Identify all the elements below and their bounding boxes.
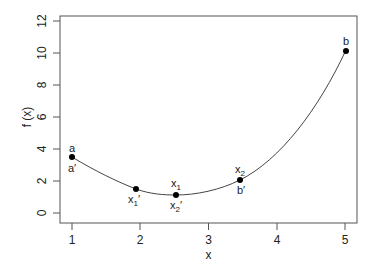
label-x1: x1 (171, 177, 182, 192)
point-x1-prime (133, 186, 139, 192)
y-tick-label: 12 (35, 14, 49, 28)
chart: 0 2 4 6 8 10 12 f (x) 1 2 3 4 5 x a a′ x… (0, 0, 386, 274)
label-x2: x2 (235, 163, 246, 178)
y-tick-label: 4 (35, 145, 49, 152)
marked-points (69, 48, 349, 198)
x-tick-label: 5 (342, 233, 349, 247)
label-b-prime: b′ (237, 184, 245, 196)
point-x1 (173, 192, 179, 198)
x-tick-label: 2 (137, 233, 144, 247)
function-curve (72, 50, 346, 195)
y-tick-label: 6 (35, 113, 49, 120)
x-axis (72, 223, 345, 230)
x-tick-label: 1 (69, 233, 76, 247)
x-tick-label: 4 (274, 233, 281, 247)
y-axis (53, 21, 60, 213)
y-tick-label: 8 (35, 81, 49, 88)
y-axis-label: f (x) (20, 107, 34, 128)
y-tick-label: 10 (35, 46, 49, 60)
y-tick-labels: 0 2 4 6 8 10 12 (35, 14, 49, 216)
y-tick-label: 2 (35, 177, 49, 184)
label-x2-prime: x2′ (170, 199, 182, 214)
point-labels: a a′ x1′ x1 x2′ x2 b′ b (68, 35, 349, 214)
x-tick-labels: 1 2 3 4 5 (69, 233, 349, 247)
plot-frame (60, 16, 357, 223)
label-a-prime: a′ (68, 162, 76, 174)
label-b: b (343, 35, 349, 47)
x-tick-label: 3 (205, 233, 212, 247)
point-a (69, 154, 75, 160)
label-x1-prime: x1′ (128, 193, 140, 208)
y-tick-label: 0 (35, 209, 49, 216)
point-b (343, 48, 349, 54)
x-axis-label: x (206, 248, 212, 262)
label-a: a (69, 142, 76, 154)
